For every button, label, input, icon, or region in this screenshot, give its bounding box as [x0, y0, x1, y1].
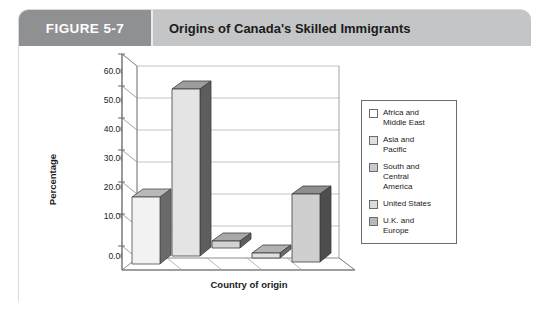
legend-swatch-icon	[369, 200, 378, 209]
bar-asia-pacific	[172, 81, 211, 256]
legend-label: United States	[383, 199, 431, 209]
legend-label-line: South and	[383, 162, 419, 171]
legend-item-uk-europe[interactable]: U.K. and Europe	[369, 216, 450, 236]
figure-card: FIGURE 5-7 Origins of Canada's Skilled I…	[18, 9, 530, 309]
legend-swatch-icon	[369, 109, 378, 118]
legend-item-united-states[interactable]: United States	[369, 199, 450, 209]
legend-label-line: Africa and	[383, 108, 419, 117]
legend-label: Asia and Pacific	[383, 135, 414, 155]
legend-label-line: Asia and	[383, 135, 414, 144]
figure-header: FIGURE 5-7 Origins of Canada's Skilled I…	[19, 10, 531, 46]
legend-label-line: America	[383, 182, 412, 191]
legend-label-line: Middle East	[383, 118, 425, 127]
legend-swatch-icon	[369, 217, 378, 226]
bar-uk-europe	[292, 186, 331, 262]
chart-legend: Africa and Middle East Asia and Pacific …	[361, 100, 457, 244]
legend-label-line: U.K. and	[383, 216, 414, 225]
legend-item-south-central-america[interactable]: South and Central America	[369, 162, 450, 192]
figure-number-label: FIGURE 5-7	[46, 21, 124, 36]
bar-africa-middle-east	[132, 189, 171, 264]
figure-title-bar: Origins of Canada's Skilled Immigrants	[151, 10, 531, 46]
legend-label: U.K. and Europe	[383, 216, 414, 236]
legend-swatch-icon	[369, 136, 378, 145]
legend-label-line: United States	[383, 199, 431, 208]
legend-item-asia-pacific[interactable]: Asia and Pacific	[369, 135, 450, 155]
legend-label-line: Europe	[383, 226, 409, 235]
chart-area: Percentage Country of origin 60.00 50.00…	[19, 46, 531, 309]
legend-label: Africa and Middle East	[383, 108, 425, 128]
legend-label: South and Central America	[383, 162, 419, 192]
legend-label-line: Pacific	[383, 145, 407, 154]
legend-label-line: Central	[383, 172, 409, 181]
legend-item-africa-middle-east[interactable]: Africa and Middle East	[369, 108, 450, 128]
page-title: Origins of Canada's Skilled Immigrants	[153, 21, 410, 36]
legend-swatch-icon	[369, 163, 378, 172]
figure-number-tab: FIGURE 5-7	[19, 10, 151, 46]
